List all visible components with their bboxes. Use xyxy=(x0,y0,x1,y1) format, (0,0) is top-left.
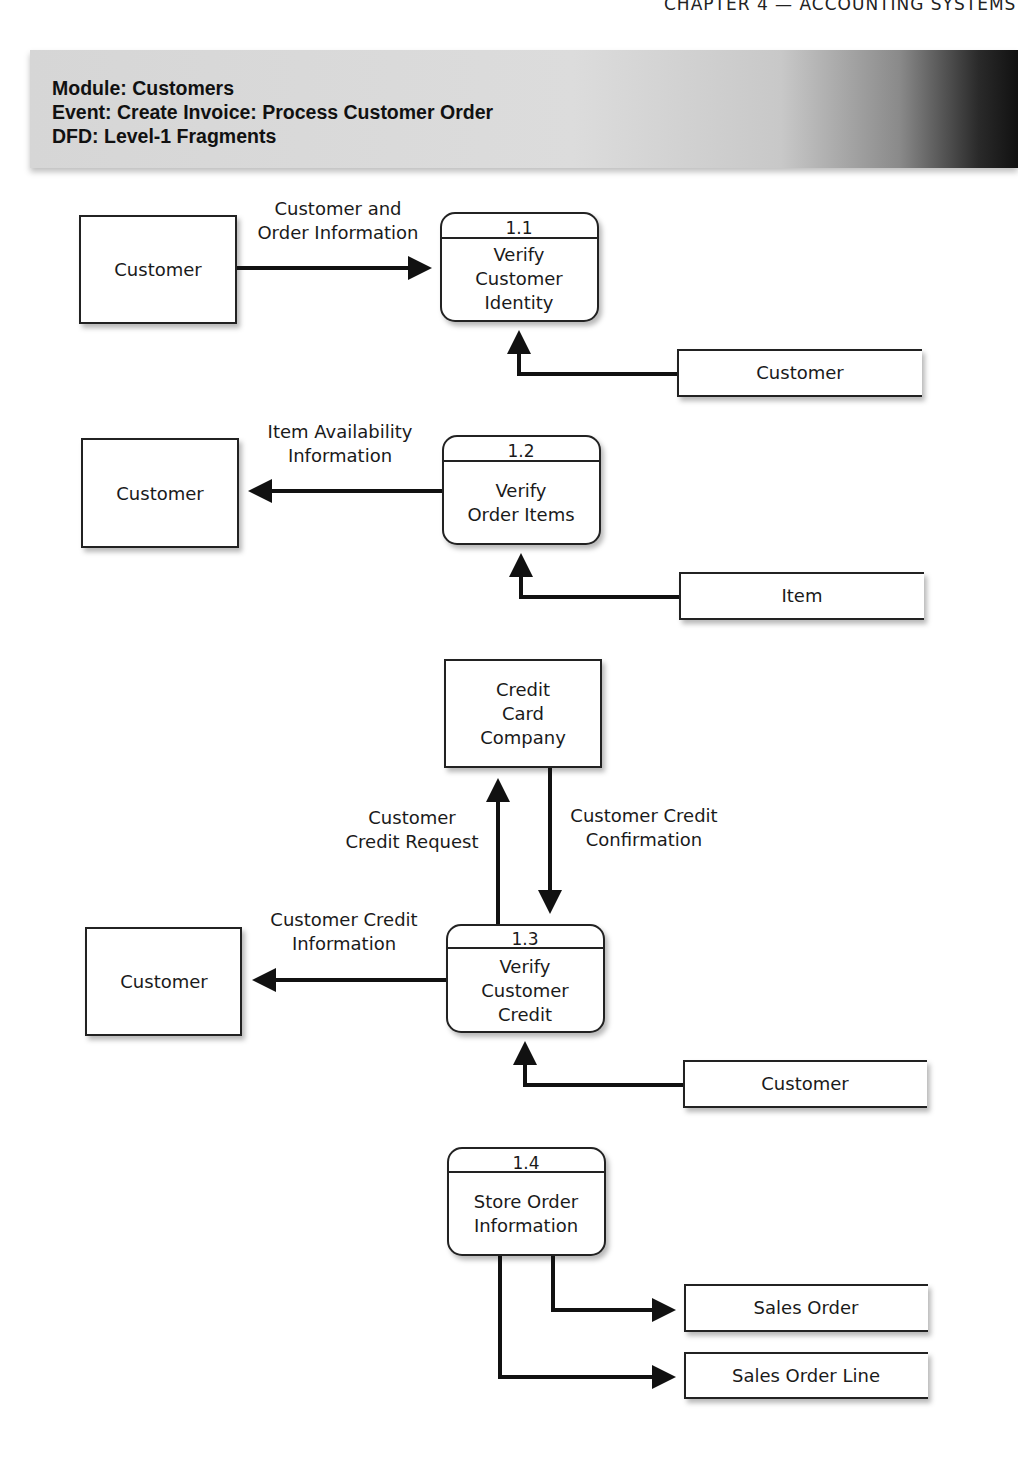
data-store-label: Item xyxy=(782,585,823,606)
fragment-1-3: Credit Card Company Customer Credit Requ… xyxy=(86,660,927,1107)
external-entity-credit-card-company[interactable]: Credit Card Company xyxy=(445,660,601,767)
process-label-line-1: Store Order xyxy=(474,1191,579,1212)
data-store-label: Customer xyxy=(756,362,844,383)
process-number: 1.2 xyxy=(507,441,534,461)
process-label-line-3: Credit xyxy=(498,1004,552,1025)
data-flow-customer-credit-info[interactable]: Customer Credit Information xyxy=(256,909,447,980)
external-entity-customer[interactable]: Customer xyxy=(86,928,241,1035)
process-label-line-2: Information xyxy=(474,1215,578,1236)
external-entity-customer[interactable]: Customer xyxy=(80,216,236,323)
data-store-label: Sales Order xyxy=(754,1297,859,1318)
data-flow-item-availability[interactable]: Item Availability Information xyxy=(252,421,443,491)
process-label-line-3: Identity xyxy=(485,292,554,313)
data-flow-to-sales-order[interactable] xyxy=(553,1256,672,1310)
flow-label-line-2: Information xyxy=(292,933,396,954)
flow-label-line-2: Information xyxy=(288,445,392,466)
process-label-line-1: Verify xyxy=(493,244,544,265)
dfd-diagram: Customer Customer and Order Information … xyxy=(0,0,1018,1469)
data-flow-credit-request[interactable]: Customer Credit Request xyxy=(346,782,498,926)
entity-label-line-3: Company xyxy=(480,727,566,748)
data-store-label: Customer xyxy=(761,1073,849,1094)
external-entity-customer[interactable]: Customer xyxy=(82,439,238,547)
process-label-line-1: Verify xyxy=(495,480,546,501)
process-1-4[interactable]: 1.4 Store Order Information xyxy=(448,1148,605,1255)
data-flow-customer-order-info[interactable]: Customer and Order Information xyxy=(237,198,428,268)
data-flow-store-to-process[interactable] xyxy=(525,1045,684,1085)
flow-label-line-2: Order Information xyxy=(257,222,418,243)
flow-label-line-1: Customer and xyxy=(274,198,401,219)
process-label-line-1: Verify xyxy=(499,956,550,977)
flow-label-line-1: Customer Credit xyxy=(270,909,417,930)
data-flow-to-sales-order-line[interactable] xyxy=(500,1256,672,1377)
fragment-1-4: 1.4 Store Order Information Sales Order … xyxy=(448,1148,928,1398)
process-1-2[interactable]: 1.2 Verify Order Items xyxy=(443,436,600,544)
fragment-1-1: Customer Customer and Order Information … xyxy=(80,198,922,396)
data-store-customer[interactable]: Customer xyxy=(684,1061,927,1107)
process-1-3[interactable]: 1.3 Verify Customer Credit xyxy=(447,925,604,1032)
entity-label: Customer xyxy=(116,483,204,504)
data-flow-store-to-process[interactable] xyxy=(519,334,678,374)
data-store-label: Sales Order Line xyxy=(732,1365,880,1386)
flow-label-line-2: Confirmation xyxy=(586,829,702,850)
entity-label: Customer xyxy=(114,259,202,280)
data-flow-store-to-process[interactable] xyxy=(521,557,680,597)
process-1-1[interactable]: 1.1 Verify Customer Identity xyxy=(441,213,598,321)
flow-label-line-2: Credit Request xyxy=(346,831,479,852)
entity-label-line-2: Card xyxy=(502,703,544,724)
fragment-1-2: Customer Item Availability Information 1… xyxy=(82,421,924,619)
flow-label-line-1: Customer Credit xyxy=(570,805,717,826)
data-store-sales-order-line[interactable]: Sales Order Line xyxy=(685,1353,928,1398)
process-label-line-2: Customer xyxy=(475,268,563,289)
process-label-line-2: Customer xyxy=(481,980,569,1001)
data-store-item[interactable]: Item xyxy=(680,573,924,619)
data-flow-credit-confirmation[interactable]: Customer Credit Confirmation xyxy=(550,768,718,910)
process-label-line-2: Order Items xyxy=(467,504,574,525)
flow-label-line-1: Customer xyxy=(368,807,456,828)
data-store-sales-order[interactable]: Sales Order xyxy=(685,1285,928,1331)
entity-label-line-1: Credit xyxy=(496,679,550,700)
process-number: 1.1 xyxy=(505,218,532,238)
data-store-customer[interactable]: Customer xyxy=(678,350,922,396)
process-number: 1.3 xyxy=(511,929,538,949)
process-number: 1.4 xyxy=(512,1153,539,1173)
flow-label-line-1: Item Availability xyxy=(268,421,413,442)
entity-label: Customer xyxy=(120,971,208,992)
